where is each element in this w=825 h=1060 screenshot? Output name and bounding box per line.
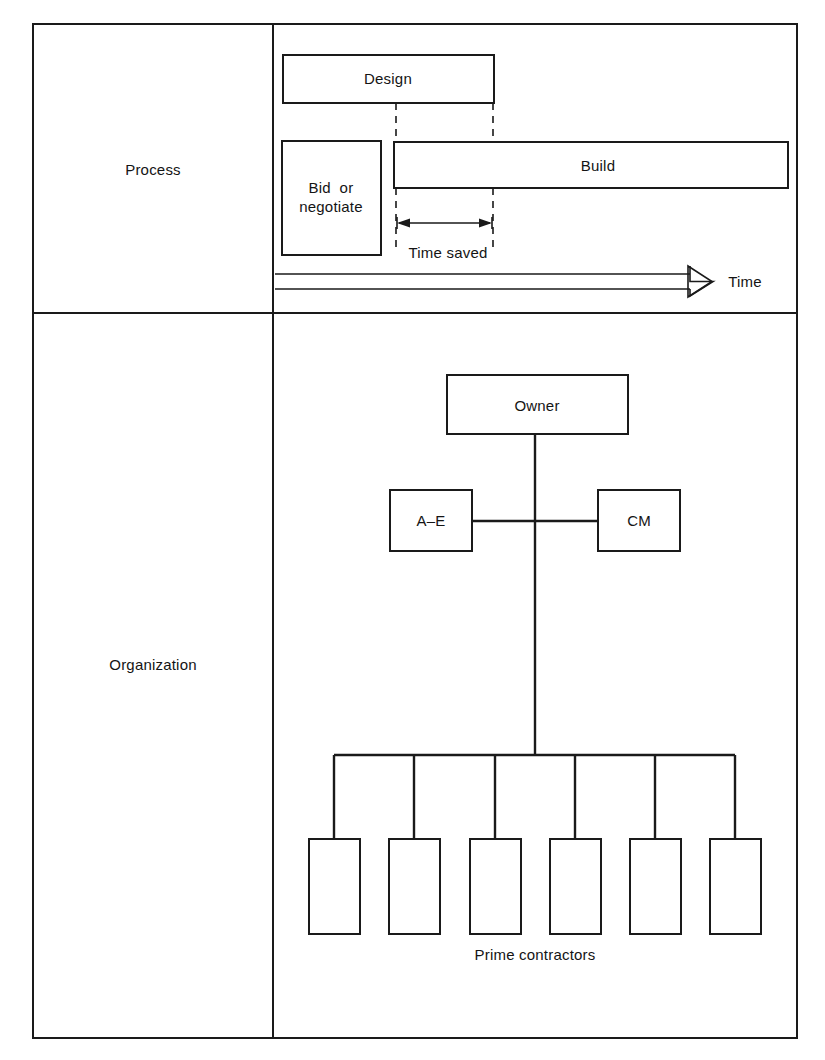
prime-contractor-5 [630, 839, 681, 934]
prime-contractor-1 [309, 839, 360, 934]
prime-contractor-4 [550, 839, 601, 934]
prime-contractor-2 [389, 839, 440, 934]
row-label-process: Process [125, 161, 181, 180]
prime-contractor-6 [710, 839, 761, 934]
diagram-vector-layer [0, 0, 825, 1060]
prime-contractor-3 [470, 839, 521, 934]
prime-contractors-label: Prime contractors [475, 946, 596, 965]
design-bar-label: Design [364, 70, 412, 89]
ae-node-label: A–E [417, 512, 446, 531]
owner-node-label: Owner [514, 397, 559, 416]
figure-canvas: Process Organization Design Bid or negot… [0, 0, 825, 1060]
cm-node-label: CM [627, 512, 651, 531]
time-saved-label: Time saved [409, 244, 488, 263]
time-axis-arrow [275, 266, 713, 297]
time-axis-label: Time [728, 273, 762, 292]
time-saved-arrow [397, 217, 492, 229]
row-label-organization: Organization [109, 656, 196, 675]
build-bar-label: Build [581, 157, 615, 176]
bid-bar-label: Bid or negotiate [299, 179, 363, 217]
